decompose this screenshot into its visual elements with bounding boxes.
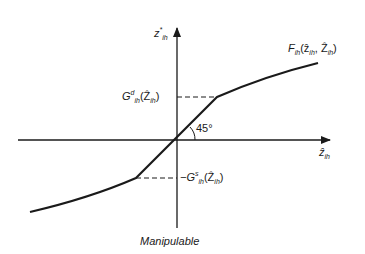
x-axis-label: ẑih — [319, 147, 330, 160]
curve-label-base: F — [288, 42, 295, 54]
curve-label-args-mid: , Ẑ — [315, 42, 328, 54]
curve-label-args: (ẑ — [300, 42, 309, 54]
curve-label: Fih(ẑih, Ẑih) — [288, 43, 337, 56]
figure-caption: Manipulable — [140, 235, 199, 247]
upper-label-base: G — [122, 90, 131, 102]
lower-threshold-label: −Gsih(Ẑih) — [180, 170, 223, 185]
lower-label-args-end: ) — [220, 171, 224, 183]
lower-label-args: (Ẑ — [204, 171, 214, 183]
y-axis-label: z*ih — [154, 26, 168, 41]
y-axis-label-sup: * — [160, 26, 163, 33]
upper-label-args-end: ) — [156, 90, 160, 102]
angle-label: 45° — [196, 122, 213, 134]
lower-label-prefix: −G — [180, 171, 195, 183]
y-axis-label-sub: ih — [162, 34, 167, 41]
function-curve — [30, 63, 318, 212]
upper-label-sup: d — [131, 89, 135, 96]
lower-label-sup: s — [195, 170, 199, 177]
x-axis-label-sub: ih — [325, 153, 330, 160]
curve-label-args-end: ) — [333, 42, 337, 54]
upper-threshold-label: Gdih(Ẑih) — [122, 89, 159, 104]
angle-arc — [190, 127, 195, 140]
upper-label-args: (Ẑ — [140, 90, 150, 102]
diagram-canvas — [0, 0, 365, 254]
